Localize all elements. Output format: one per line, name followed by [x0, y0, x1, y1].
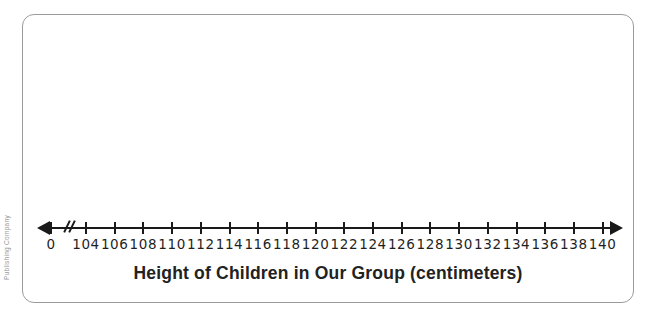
tick-label: 128: [417, 236, 445, 252]
tick-mark: [458, 222, 460, 234]
tick-mark: [286, 222, 288, 234]
tick-mark: [229, 222, 231, 234]
tick-label: 122: [331, 236, 359, 252]
tick-label: 118: [273, 236, 301, 252]
tick-mark: [372, 222, 374, 234]
worksheet-page: Publishing Company 010410610811011211411…: [0, 0, 658, 318]
plot-empty-area: [63, 45, 643, 225]
tick-mark: [544, 222, 546, 234]
tick-label: 110: [158, 236, 186, 252]
tick-label: 134: [503, 236, 531, 252]
tick-label: 124: [359, 236, 387, 252]
chart-title: Height of Children in Our Group (centime…: [22, 263, 634, 284]
tick-mark: [50, 222, 52, 234]
tick-mark: [315, 222, 317, 234]
tick-mark: [114, 222, 116, 234]
tick-label: 112: [187, 236, 215, 252]
copyright-sidebar-text: Publishing Company: [3, 189, 10, 307]
tick-mark: [602, 222, 604, 234]
left-arrow-icon: [37, 221, 50, 235]
number-line: 0104106108110112114116118120122124126128…: [37, 217, 623, 259]
tick-mark: [516, 222, 518, 234]
tick-label: 0: [46, 236, 55, 252]
line-plot-panel: [22, 14, 634, 303]
axis-break-icon: [65, 220, 75, 234]
tick-label: 106: [101, 236, 129, 252]
right-arrow-icon: [610, 221, 623, 235]
tick-label: 126: [388, 236, 416, 252]
tick-mark: [257, 222, 259, 234]
axis-line: [43, 227, 617, 229]
tick-mark: [487, 222, 489, 234]
tick-label: 138: [560, 236, 588, 252]
tick-label: 132: [474, 236, 502, 252]
tick-mark: [200, 222, 202, 234]
tick-label: 120: [302, 236, 330, 252]
tick-label: 136: [531, 236, 559, 252]
tick-mark: [142, 222, 144, 234]
tick-mark: [401, 222, 403, 234]
tick-mark: [171, 222, 173, 234]
tick-label: 130: [445, 236, 473, 252]
tick-mark: [85, 222, 87, 234]
tick-label: 140: [589, 236, 617, 252]
tick-label: 108: [130, 236, 158, 252]
tick-mark: [573, 222, 575, 234]
tick-label: 104: [72, 236, 100, 252]
tick-label: 114: [216, 236, 244, 252]
tick-label: 116: [244, 236, 272, 252]
tick-mark: [343, 222, 345, 234]
tick-mark: [429, 222, 431, 234]
